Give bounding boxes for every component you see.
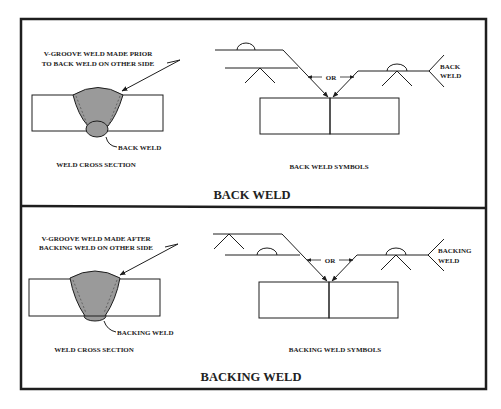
joint-plate-right	[329, 282, 398, 318]
weld-diagram: V-GROOVE WELD MADE PRIOR TO BACK WELD ON…	[0, 0, 501, 409]
v-groove-symbol-icon	[245, 68, 275, 83]
tail-icon	[429, 55, 444, 87]
symbols-caption: BACKING WELD SYMBOLS	[289, 346, 382, 354]
reference-line-1	[213, 234, 327, 281]
callout-text-line1: V-GROOVE WELD MADE AFTER	[41, 235, 151, 243]
reference-line-1	[215, 50, 328, 97]
reference-line-3	[332, 255, 428, 281]
back-weld-label: BACK WELD	[118, 144, 161, 152]
v-groove-symbol-icon	[214, 234, 244, 249]
v-groove-symbol-icon-2	[382, 71, 412, 86]
weld-symbols-backing-weld: OR BACKING WELD BACKING WELD SYMBOLS	[213, 234, 472, 354]
joint-plate-right	[330, 98, 399, 134]
tail-text-line2: WELD	[438, 257, 459, 265]
cross-section-caption: WELD CROSS SECTION	[54, 346, 134, 354]
or-label: OR	[325, 257, 336, 265]
back-weld-leader	[106, 137, 117, 147]
panel-title: BACK WELD	[213, 188, 290, 202]
tail-text-line2: WELD	[440, 72, 461, 80]
cross-section-caption: WELD CROSS SECTION	[56, 161, 136, 169]
panel-title: BACKING WELD	[201, 370, 302, 384]
callout-text-line2: BACKING WELD ON OTHER SIDE	[39, 244, 153, 252]
tail-text-line1: BACKING	[438, 247, 472, 255]
panel-backing-weld: V-GROOVE WELD MADE AFTER BACKING WELD ON…	[29, 234, 472, 384]
weld-symbols-back-weld: OR BACK WELD BACK WELD SYMBOLS	[215, 43, 461, 171]
or-label: OR	[326, 74, 337, 82]
reference-line-3	[333, 71, 429, 97]
joint-plate-left	[260, 98, 330, 134]
back-weld-symbol-icon-2	[387, 64, 407, 71]
tail-icon	[428, 239, 444, 271]
callout-text-line2: TO BACK WELD ON OTHER SIDE	[42, 60, 155, 68]
callout-text-line1: V-GROOVE WELD MADE PRIOR	[44, 50, 153, 58]
back-weld-symbol-icon	[237, 43, 255, 50]
backing-weld-symbol-icon	[257, 248, 277, 255]
v-groove-symbol-icon-2	[381, 255, 411, 270]
backing-weld-label: BACKING WELD	[117, 329, 173, 337]
cross-section-back-weld: V-GROOVE WELD MADE PRIOR TO BACK WELD ON…	[32, 50, 180, 169]
joint-plate-left	[259, 282, 329, 318]
back-weld-bead	[86, 121, 108, 137]
backing-weld-symbol-icon-2	[386, 248, 406, 255]
cross-section-backing-weld: V-GROOVE WELD MADE AFTER BACKING WELD ON…	[29, 235, 178, 354]
panel-divider	[21, 206, 486, 208]
backing-weld-leader	[104, 321, 116, 332]
symbols-caption: BACK WELD SYMBOLS	[289, 163, 368, 171]
tail-text-line1: BACK	[440, 63, 461, 71]
panel-back-weld: V-GROOVE WELD MADE PRIOR TO BACK WELD ON…	[32, 43, 461, 202]
